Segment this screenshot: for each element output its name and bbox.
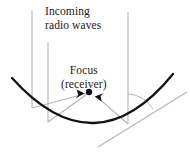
focus-label-line2: (receiver) [61, 78, 107, 92]
incoming-radio-waves-label-line1: Incoming [45, 5, 101, 19]
incoming-radio-waves-label: Incoming radio waves [45, 5, 101, 32]
focus-label-line1: Focus [61, 64, 107, 78]
arrowhead-right-icon [95, 93, 104, 101]
incoming-radio-waves-label-line2: radio waves [45, 19, 101, 33]
focus-receiver-label: Focus (receiver) [61, 64, 107, 91]
figure-canvas: Incoming radio waves Focus (receiver) [0, 0, 190, 155]
